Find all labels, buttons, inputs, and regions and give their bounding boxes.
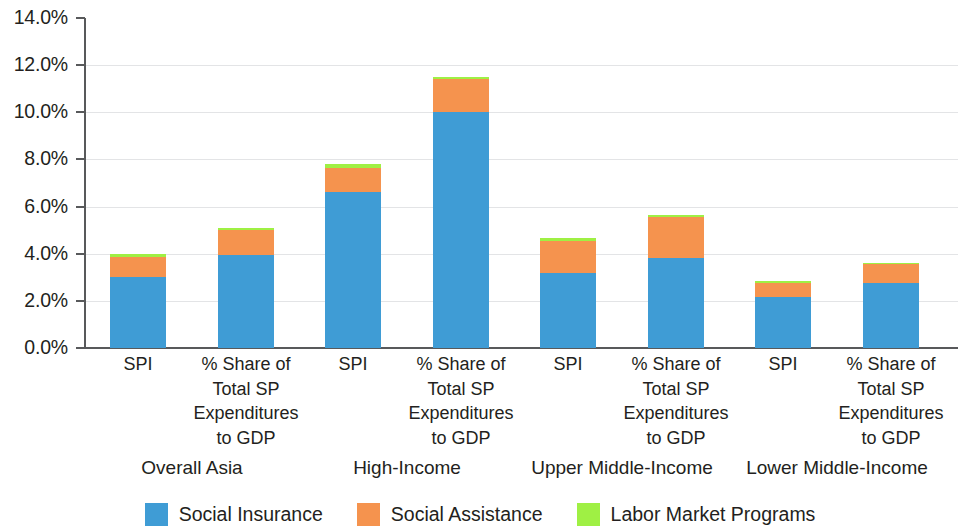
- legend-label: Social Assistance: [391, 503, 543, 526]
- bar-segment: [540, 241, 596, 273]
- x-axis-category-label-line: Total SP: [828, 377, 954, 402]
- x-axis-group-label: High-Income: [353, 455, 461, 481]
- bar: [218, 228, 274, 348]
- x-axis-group-label: Overall Asia: [141, 455, 242, 481]
- bar: [863, 263, 919, 348]
- bar-segment: [863, 264, 919, 283]
- bar-segment: [218, 255, 274, 348]
- x-axis-category-label: % Share ofTotal SPExpendituresto GDP: [828, 352, 954, 450]
- bar-segment: [648, 217, 704, 258]
- x-axis-category-label-line: to GDP: [828, 426, 954, 451]
- y-axis-tick-mark: [76, 17, 85, 19]
- bar-segment: [540, 273, 596, 348]
- legend-color-swatch: [357, 503, 380, 526]
- gridline: [86, 65, 958, 66]
- chart-legend: Social InsuranceSocial AssistanceLabor M…: [0, 498, 960, 530]
- legend-color-swatch: [145, 503, 168, 526]
- bar-segment: [218, 230, 274, 255]
- x-axis-category-label-line: to GDP: [183, 426, 309, 451]
- legend-label: Labor Market Programs: [611, 503, 816, 526]
- bar-segment: [433, 112, 489, 348]
- x-axis-group-label: Upper Middle-Income: [531, 455, 713, 481]
- x-axis-category-label-line: Total SP: [613, 377, 739, 402]
- bar: [648, 215, 704, 348]
- y-axis-tick-mark: [76, 158, 85, 160]
- bar-segment: [863, 283, 919, 348]
- y-axis-tick-label: 4.0%: [0, 244, 68, 264]
- y-axis-tick-label: 6.0%: [0, 197, 68, 217]
- x-axis-category-label-line: Total SP: [398, 377, 524, 402]
- y-axis-tick-label: 2.0%: [0, 291, 68, 311]
- gridline: [86, 112, 958, 113]
- gridline: [86, 254, 958, 255]
- bar-segment: [755, 297, 811, 348]
- y-axis-tick-label: 8.0%: [0, 150, 68, 170]
- bar: [325, 164, 381, 348]
- bar: [755, 281, 811, 348]
- x-axis-category-label-line: Expenditures: [613, 401, 739, 426]
- bar-segment: [325, 192, 381, 348]
- plot-area: [86, 18, 958, 348]
- legend-item: Labor Market Programs: [577, 503, 816, 526]
- bar-segment: [110, 257, 166, 277]
- y-axis-tick-mark: [76, 253, 85, 255]
- y-axis-tick-mark: [76, 300, 85, 302]
- x-axis-group-label: Lower Middle-Income: [746, 455, 928, 481]
- x-axis-group-labels: Overall AsiaHigh-IncomeUpper Middle-Inco…: [86, 455, 958, 485]
- bar-segment: [648, 258, 704, 348]
- y-axis-tick-mark: [76, 111, 85, 113]
- x-axis-category-label-line: to GDP: [398, 426, 524, 451]
- bar: [433, 77, 489, 348]
- y-axis-tick-mark: [76, 64, 85, 66]
- y-axis-tick-label: 12.0%: [0, 55, 68, 75]
- y-axis-tick-label: 10.0%: [0, 103, 68, 123]
- x-axis-category-label-line: Expenditures: [183, 401, 309, 426]
- x-axis-category-label-line: to GDP: [613, 426, 739, 451]
- x-axis-category-label-line: Expenditures: [398, 401, 524, 426]
- y-axis-tick-label: 0.0%: [0, 338, 68, 358]
- x-axis-category-labels: SPI% Share ofTotal SPExpendituresto GDPS…: [86, 352, 958, 452]
- bar: [110, 254, 166, 348]
- x-axis-category-label-line: Expenditures: [828, 401, 954, 426]
- bar-segment: [325, 168, 381, 193]
- y-axis-tick-mark: [76, 206, 85, 208]
- bar-segment: [433, 79, 489, 112]
- y-axis-tick-label: 14.0%: [0, 8, 68, 28]
- legend-color-swatch: [577, 503, 600, 526]
- gridline: [86, 159, 958, 160]
- bar-segment: [755, 283, 811, 297]
- y-axis-tick-mark: [76, 347, 85, 349]
- stacked-bar-chart: 0.0%2.0%4.0%6.0%8.0%10.0%12.0%14.0% SPI%…: [0, 0, 960, 532]
- gridline: [86, 207, 958, 208]
- bar: [540, 238, 596, 348]
- bar-segment: [110, 277, 166, 348]
- legend-item: Social Assistance: [357, 503, 543, 526]
- gridline: [86, 301, 958, 302]
- legend-label: Social Insurance: [179, 503, 323, 526]
- x-axis-category-label-line: Total SP: [183, 377, 309, 402]
- x-axis-category-label-line: % Share of: [828, 352, 954, 377]
- y-axis: 0.0%2.0%4.0%6.0%8.0%10.0%12.0%14.0%: [0, 0, 74, 360]
- legend-item: Social Insurance: [145, 503, 323, 526]
